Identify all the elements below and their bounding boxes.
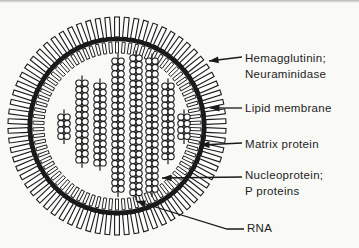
label-lipid-membrane: Lipid membrane (245, 100, 332, 116)
nucleoprotein-bead (146, 128, 152, 134)
nucleoprotein-bead (136, 177, 142, 183)
nucleoprotein-bead (178, 133, 184, 139)
nucleoprotein-bead (118, 141, 124, 147)
nucleoprotein-bead (136, 138, 142, 144)
nucleoprotein-bead (64, 114, 70, 120)
nucleoprotein-bead (136, 157, 142, 163)
nucleoprotein-bead (146, 173, 152, 179)
nucleoprotein-bead (112, 64, 118, 70)
nucleoprotein-bead (146, 64, 152, 70)
nucleoprotein-bead (112, 167, 118, 173)
nucleoprotein-bead (94, 89, 100, 95)
nucleoprotein-bead (100, 134, 106, 140)
label-line: RNA (247, 222, 272, 234)
nucleoprotein-bead (136, 151, 142, 157)
nucleoprotein-bead (136, 106, 142, 112)
nucleoprotein-bead (112, 96, 118, 102)
nucleoprotein-bead (112, 148, 118, 154)
nucleoprotein-bead (184, 120, 190, 126)
nucleoprotein-bead (146, 122, 152, 128)
nucleoprotein-bead (112, 71, 118, 77)
nucleoprotein-bead (146, 109, 152, 115)
nucleoprotein-bead (118, 90, 124, 96)
nucleoprotein-bead (136, 68, 142, 74)
nucleoprotein-bead (112, 154, 118, 160)
nucleoprotein-bead (118, 109, 124, 115)
nucleoprotein-bead (152, 167, 158, 173)
nucleoprotein-bead (112, 103, 118, 109)
nucleoprotein-bead (162, 89, 168, 95)
label-line: Matrix protein (245, 138, 319, 150)
nucleoprotein-bead (130, 125, 136, 131)
rnp-chain (58, 110, 70, 145)
nucleoprotein-bead (184, 133, 190, 139)
nucleoprotein-bead (118, 71, 124, 77)
nucleoprotein-bead (94, 141, 100, 147)
nucleoprotein-bead (152, 180, 158, 186)
nucleoprotein-bead (162, 115, 168, 121)
nucleoprotein-bead (162, 83, 168, 89)
nucleoprotein-bead (94, 121, 100, 127)
nucleoprotein-bead (94, 96, 100, 102)
nucleoprotein-bead (82, 112, 88, 118)
nucleoprotein-bead (152, 64, 158, 70)
nucleoprotein-bead (82, 106, 88, 112)
nucleoprotein-bead (76, 106, 82, 112)
nucleoprotein-bead (146, 160, 152, 166)
nucleoprotein-bead (100, 160, 106, 166)
nucleoprotein-bead (112, 77, 118, 83)
nucleoprotein-bead (162, 109, 168, 115)
virus-diagram-svg (0, 0, 359, 248)
nucleoprotein-bead (64, 133, 70, 139)
nucleoprotein-bead (130, 106, 136, 112)
nucleoprotein-bead (146, 148, 152, 154)
nucleoprotein-bead (118, 180, 124, 186)
nucleoprotein-bead (136, 119, 142, 125)
label-matrix-protein: Matrix protein (245, 136, 319, 152)
nucleoprotein-bead (136, 164, 142, 170)
nucleoprotein-bead (152, 103, 158, 109)
nucleoprotein-bead (94, 147, 100, 153)
nucleoprotein-bead (178, 127, 184, 133)
nucleoprotein-bead (136, 132, 142, 138)
nucleoprotein-bead (100, 121, 106, 127)
arrow-surface-spikes (209, 56, 242, 63)
nucleoprotein-bead (184, 114, 190, 120)
nucleoprotein-bead (82, 150, 88, 156)
nucleoprotein-bead (112, 135, 118, 141)
nucleoprotein-bead (152, 141, 158, 147)
nucleoprotein-bead (112, 90, 118, 96)
nucleoprotein-bead (118, 103, 124, 109)
rnp-chain (112, 54, 124, 197)
nucleoprotein-bead (168, 89, 174, 95)
nucleoprotein-bead (178, 114, 184, 120)
nucleoprotein-bead (76, 99, 82, 105)
nucleoprotein-bead (118, 116, 124, 122)
nucleoprotein-bead (162, 134, 168, 140)
arrowhead (209, 56, 219, 63)
nucleoprotein-bead (136, 61, 142, 67)
label-line: Nucleoprotein; (245, 169, 323, 181)
nucleoprotein-bead (76, 131, 82, 137)
nucleoprotein-bead (130, 87, 136, 93)
nucleoprotein-bead (168, 109, 174, 115)
nucleoprotein-bead (130, 132, 136, 138)
nucleoprotein-bead (146, 103, 152, 109)
nucleoprotein-bead (168, 102, 174, 108)
nucleoprotein-bead (146, 96, 152, 102)
nucleoprotein-bead (162, 153, 168, 159)
nucleoprotein-bead (118, 186, 124, 192)
nucleoprotein-bead (94, 128, 100, 134)
nucleoprotein-bead (152, 154, 158, 160)
nucleoprotein-bead (76, 157, 82, 163)
label-line: P proteins (245, 185, 300, 197)
nucleoprotein-bead (152, 148, 158, 154)
nucleoprotein-bead (136, 87, 142, 93)
nucleoprotein-bead (168, 153, 174, 159)
label-line: Hemagglutinin; (245, 52, 326, 64)
nucleoprotein-bead (82, 138, 88, 144)
nucleoprotein-bead (100, 141, 106, 147)
nucleoprotein-bead (76, 93, 82, 99)
nucleoprotein-bead (146, 90, 152, 96)
nucleoprotein-bead (130, 183, 136, 189)
